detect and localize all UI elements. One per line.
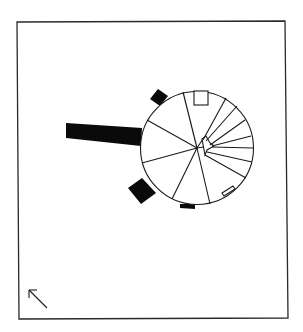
walkway-bar <box>66 123 142 146</box>
plan-diagram <box>0 0 303 332</box>
top-opening <box>194 91 208 105</box>
north-arrow-icon <box>29 290 47 308</box>
